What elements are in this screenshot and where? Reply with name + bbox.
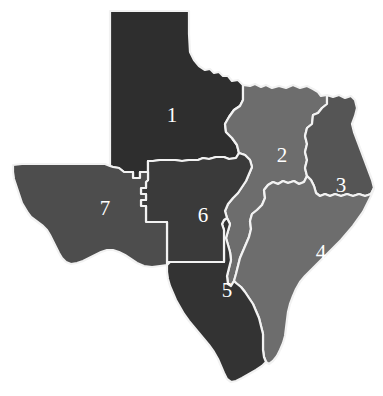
region-label-1: 1 (167, 103, 178, 127)
region-label-3: 3 (336, 173, 347, 197)
region-shape-7[interactable] (13, 164, 167, 267)
region-label-7: 7 (100, 196, 111, 220)
region-label-5: 5 (222, 278, 233, 302)
texas-region-map: 1 2 3 4 5 6 7 (0, 0, 383, 396)
texas-map-svg: 1 2 3 4 5 6 7 (0, 0, 383, 396)
region-label-2: 2 (277, 143, 288, 167)
region-shape-1[interactable] (110, 11, 243, 178)
region-label-4: 4 (316, 240, 327, 264)
region-label-6: 6 (198, 203, 209, 227)
